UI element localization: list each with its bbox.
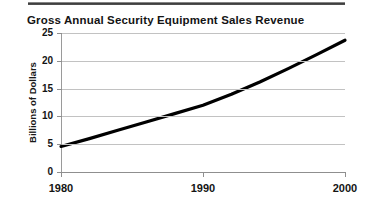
y-tick-mark — [57, 144, 62, 145]
x-tick-label: 1990 — [173, 182, 233, 194]
y-tick-label: 5 — [13, 139, 53, 149]
y-tick-label: 25 — [13, 28, 53, 38]
gridline — [61, 61, 345, 62]
y-tick-label: 10 — [13, 111, 53, 121]
series-polyline — [61, 40, 345, 146]
x-tick-mark — [61, 172, 62, 177]
gridline — [61, 116, 345, 117]
y-tick-label: 15 — [13, 84, 53, 94]
y-tick-label: 20 — [13, 56, 53, 66]
x-tick-mark — [345, 172, 346, 177]
gridline — [61, 89, 345, 90]
y-tick-mark — [57, 33, 62, 34]
top-rule-divider — [28, 2, 345, 5]
y-tick-label: 0 — [13, 167, 53, 177]
gridline — [61, 144, 345, 145]
gridline — [61, 33, 345, 34]
chart-title: Gross Annual Security Equipment Sales Re… — [27, 14, 357, 27]
chart-figure: Gross Annual Security Equipment Sales Re… — [0, 0, 377, 204]
y-tick-mark — [57, 89, 62, 90]
y-tick-mark — [57, 116, 62, 117]
x-tick-label: 1980 — [31, 182, 91, 194]
x-tick-mark — [203, 172, 204, 177]
data-line — [61, 33, 345, 172]
plot-area — [61, 33, 345, 172]
x-tick-label: 2000 — [315, 182, 375, 194]
y-tick-mark — [57, 61, 62, 62]
